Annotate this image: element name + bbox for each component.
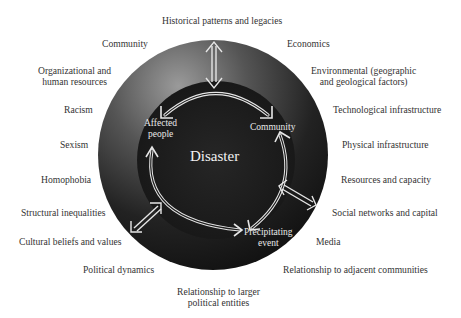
factor-sexism: Sexism <box>60 139 88 150</box>
factor-media: Media <box>316 236 341 247</box>
factor-structural-inequalities: Structural inequalities <box>21 207 105 218</box>
factor-relationship-adjacent-communities: Relationship to adjacent communities <box>283 264 428 275</box>
center-title: Disaster <box>190 148 239 164</box>
factor-organizational-human-resources: Organizational andhuman resources <box>38 65 111 87</box>
factor-cultural-beliefs-values: Cultural beliefs and values <box>19 236 122 247</box>
factor-relationship-larger-political-entities: Relationship to largerpolitical entities <box>177 286 260 308</box>
factor-homophobia: Homophobia <box>41 174 91 185</box>
factor-racism: Racism <box>64 104 93 115</box>
factor-political-dynamics: Political dynamics <box>83 264 154 275</box>
node-affected-people: Affectedpeople <box>144 118 177 139</box>
factor-environmental: Environmental (geographicand geological … <box>311 65 416 87</box>
factor-physical-infrastructure: Physical infrastructure <box>342 139 429 150</box>
factor-technological-infrastructure: Technological infrastructure <box>333 104 441 115</box>
factor-economics: Economics <box>287 38 330 49</box>
node-community: Community <box>250 122 296 132</box>
factor-community: Community <box>102 38 148 49</box>
factor-historical-patterns: Historical patterns and legacies <box>162 15 282 26</box>
factor-social-networks-capital: Social networks and capital <box>332 207 438 218</box>
factor-resources-capacity: Resources and capacity <box>341 174 431 185</box>
